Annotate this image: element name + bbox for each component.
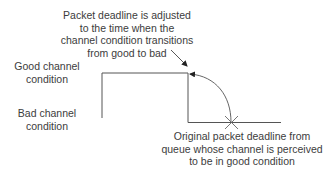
bad-channel-label-line-2: condition: [18, 120, 76, 133]
bottom-annotation-line-1: Original packet deadline from: [161, 130, 322, 143]
deadline-adjustment-arc: [190, 74, 231, 122]
bad-channel-label: Bad channel condition: [18, 107, 76, 132]
bad-channel-label-line-1: Bad channel: [18, 107, 76, 120]
top-annotation-line-3: channel condition transitions: [61, 34, 194, 47]
top-annotation: Packet deadline is adjusted to the time …: [61, 9, 194, 59]
bottom-annotation-line-2: queue whose channel is perceived: [161, 143, 322, 156]
bottom-annotation: Original packet deadline from queue whos…: [161, 130, 322, 168]
good-channel-label-line-1: Good channel: [14, 60, 79, 73]
good-channel-label-line-2: condition: [14, 73, 79, 86]
good-channel-label: Good channel condition: [14, 60, 79, 85]
channel-condition-waveform: [102, 73, 281, 123]
top-annotation-line-2: to the time when the: [61, 22, 194, 35]
top-annotation-line-4: from good to bad: [61, 47, 194, 60]
top-annotation-line-1: Packet deadline is adjusted: [61, 9, 194, 22]
bottom-annotation-line-3: to be in good condition: [161, 155, 322, 168]
